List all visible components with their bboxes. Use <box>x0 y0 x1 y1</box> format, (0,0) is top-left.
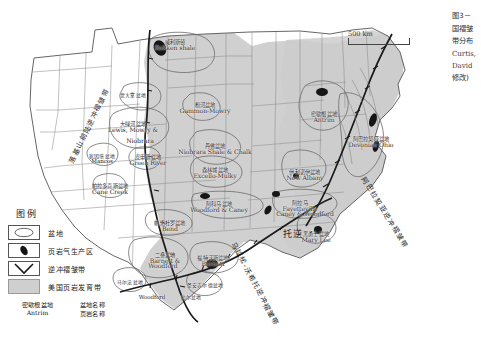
legend-example-captions: 盆地名称 页岩名称 <box>65 300 120 318</box>
figure-caption: 图3－国褶皱带分布Curtis,David修改) <box>452 10 481 85</box>
shale-gas-production-icon <box>8 243 40 258</box>
caption-line: 国褶皱 <box>452 23 481 36</box>
legend-name-example: 密歇根盆地 Antrim 盆地名称 页岩名称 <box>10 300 120 318</box>
scale-bar-line <box>348 38 410 45</box>
legend-label-shale-gas-production: 页岩气生产区 <box>48 246 94 256</box>
scale-bar: 500 km <box>348 30 410 45</box>
legend-example-shale-en: Antrim <box>10 309 65 316</box>
legend-item-shale-development-belt: 美国页岩发育带 <box>8 278 120 295</box>
legend-item-basin: 盆地 <box>8 224 120 241</box>
legend-item-thrust-fold-belt: 逆冲褶皱带 <box>8 260 120 277</box>
legend-example-basin-cn: 密歇根盆地 <box>10 300 65 309</box>
shale-development-belt-icon <box>8 279 40 294</box>
map-legend: 图例 盆地 页岩气生产区 逆冲褶皱带 <box>8 207 120 318</box>
caption-line: 带分布 <box>452 35 481 48</box>
legend-example-values: 密歇根盆地 Antrim <box>10 300 65 318</box>
legend-example-shale-caption: 页岩名称 <box>65 309 120 318</box>
thrust-fold-belt-icon <box>8 261 40 276</box>
legend-example-basin-caption: 盆地名称 <box>65 300 120 309</box>
caption-line: 图3－ <box>452 10 481 23</box>
caption-line: Curtis, <box>452 48 481 60</box>
legend-title: 图例 <box>16 207 120 220</box>
legend-label-basin: 盆地 <box>48 228 63 238</box>
legend-item-shale-gas-production: 页岩气生产区 <box>8 242 120 259</box>
figure-root: 威利斯顿Bakken shale蒙大拿盆地粉河盆地Gammon-Mowry大绿河… <box>0 0 481 343</box>
scale-bar-label: 500 km <box>348 30 410 38</box>
caption-line: David <box>452 60 481 72</box>
caption-line: 修改) <box>452 72 481 85</box>
legend-label-shale-development-belt: 美国页岩发育带 <box>48 282 101 292</box>
legend-label-thrust-fold-belt: 逆冲褶皱带 <box>48 264 86 274</box>
basin-outline-icon <box>8 225 40 240</box>
